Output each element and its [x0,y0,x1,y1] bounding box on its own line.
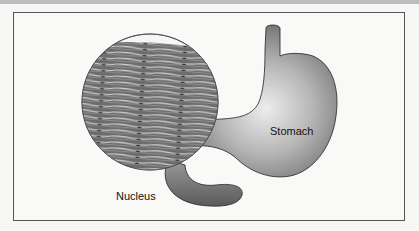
duodenum-shape [165,160,242,206]
stomach-label: Stomach [270,125,313,137]
stomach-illustration [0,0,419,231]
nucleus-label: Nucleus [116,190,156,202]
